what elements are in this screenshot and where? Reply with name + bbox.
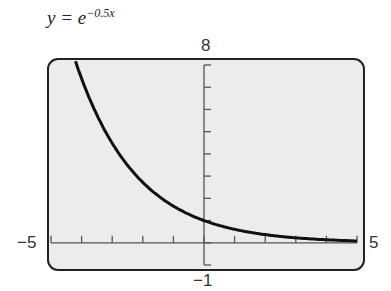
- graph-screen: [0, 0, 391, 291]
